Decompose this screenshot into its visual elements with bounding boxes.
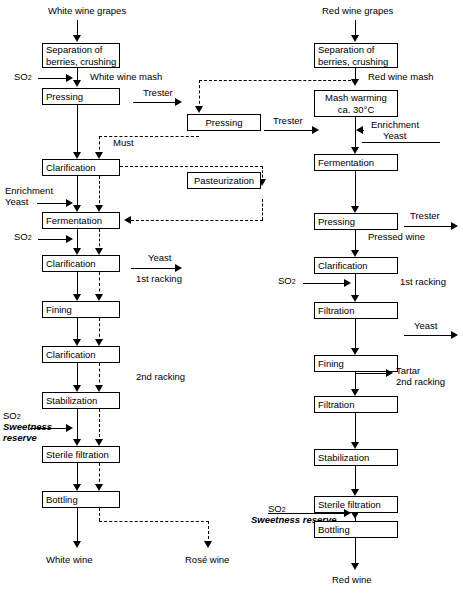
connector-yeast-out-red [404, 335, 452, 336]
box-pasteurization[interactable]: Pasteurization [187, 172, 261, 189]
arrowhead-right [451, 222, 458, 230]
arrowhead-down [351, 489, 359, 496]
label-white-wine-mash: White wine mash [90, 72, 162, 83]
arrowhead-right [175, 98, 182, 106]
connector-so2-1 [38, 78, 67, 79]
connector-so2-2 [38, 239, 67, 240]
box-separation-berries-crushing-red[interactable]: Separation of berries, crushing [314, 43, 398, 68]
label-yeast-out-white: Yeast [148, 253, 171, 264]
label-trester-white: Trester [143, 88, 173, 99]
label-red-wine-output: Red wine [332, 575, 372, 586]
connector-mashwarming-to-fermentation [355, 117, 356, 150]
arrowhead-right [66, 235, 73, 243]
label-white-wine-output: White wine [46, 555, 92, 566]
arrowhead-down [351, 147, 359, 154]
box-fining-white[interactable]: Fining [42, 301, 120, 318]
connector-dashed-redmash-left [199, 80, 356, 81]
box-label-line: ca. 30°C [338, 104, 375, 115]
arrowhead-right [175, 264, 182, 272]
arrowhead-down [351, 79, 359, 86]
box-sterile-filtration-red[interactable]: Sterile filtration [314, 496, 398, 513]
arrowhead-down [204, 541, 212, 548]
box-filtration-2-red[interactable]: Filtration [314, 396, 398, 413]
box-label-line: Pressing [206, 117, 243, 128]
box-clarification-1-white[interactable]: Clarification [42, 159, 120, 176]
box-label-line: Pressing [318, 216, 394, 227]
arrowhead-down [351, 206, 359, 213]
box-label-line: Stabilization [46, 395, 116, 406]
label-red-wine-grapes: Red wine grapes [322, 6, 393, 17]
connector-enrichment-stub [362, 130, 364, 131]
box-label-line: Pasteurization [194, 175, 254, 186]
arrowhead-right [344, 279, 351, 287]
box-clarification-red[interactable]: Clarification [314, 257, 398, 274]
connector-sweetness-reserve-red [268, 513, 345, 514]
arrowhead-down [351, 250, 359, 257]
label-1st-racking-white: 1st racking [136, 274, 182, 285]
box-fermentation-red[interactable]: Fermentation [314, 154, 398, 171]
box-fermentation-white[interactable]: Fermentation [42, 212, 120, 229]
label-reserve: reserve [3, 433, 37, 444]
arrowhead-down [73, 541, 81, 548]
arrowhead-down [73, 385, 81, 392]
box-pressing-middle[interactable]: Pressing [187, 114, 261, 131]
arrowhead-down [95, 152, 103, 159]
box-separation-berries-crushing-white[interactable]: Separation of berries, crushing [42, 43, 120, 68]
box-clarification-2-white[interactable]: Clarification [42, 255, 120, 272]
arrowhead-down [351, 563, 359, 570]
arrowhead-down [351, 35, 359, 42]
label-so2-2: SO2 [14, 232, 32, 243]
box-sterile-filtration-white[interactable]: Sterile filtration [42, 446, 120, 463]
box-stabilization-red[interactable]: Stabilization [314, 449, 398, 466]
arrowhead-down [73, 439, 81, 446]
connector-dashed-clarification1-to-fermentation [99, 176, 100, 208]
connector-fermentation-to-pressing-red [355, 171, 356, 209]
box-bottling-white[interactable]: Bottling [42, 491, 120, 508]
box-filtration-1-red[interactable]: Filtration [314, 302, 398, 319]
connector-dashed-bottling-rose-down [99, 508, 100, 521]
arrowhead-down [95, 294, 103, 301]
box-pressing-red[interactable]: Pressing [314, 213, 398, 230]
arrowhead-down [95, 385, 103, 392]
arrowhead-down [195, 106, 203, 113]
box-bottling-red[interactable]: Bottling [314, 521, 398, 538]
label-red-wine-mash: Red wine mash [368, 72, 433, 83]
arrowhead-right [312, 126, 319, 134]
connector-pressing-to-clarification1 [77, 105, 78, 155]
connector-dashed-bottling-rose-right [99, 521, 209, 522]
box-label-line: Clarification [46, 162, 116, 173]
arrowhead-down [73, 80, 81, 87]
box-label-line: Clarification [46, 258, 116, 269]
arrowhead-down [73, 152, 81, 159]
label-rose-wine-output: Rosé wine [185, 555, 229, 566]
box-label-line: Stabilization [318, 452, 394, 463]
box-clarification-3-white[interactable]: Clarification [42, 346, 120, 363]
label-trester-middle: Trester [273, 116, 303, 127]
box-label-line: berries, crushing [318, 56, 394, 67]
arrowhead-left [124, 216, 131, 224]
box-label-line: Filtration [318, 305, 394, 316]
label-1st-racking-red: 1st racking [400, 277, 446, 288]
connector-trester-red-out [404, 226, 452, 227]
box-stabilization-white[interactable]: Stabilization [42, 392, 120, 409]
arrowhead-down [95, 248, 103, 255]
arrowhead-right [66, 424, 73, 432]
box-label-line: Fermentation [318, 157, 394, 168]
connector-bottling-to-white-wine [77, 508, 78, 544]
arrowhead-right [451, 331, 458, 339]
box-label-line: Separation of [318, 44, 394, 55]
connector-bottling-to-red-wine [355, 538, 356, 566]
label-2nd-racking-white: 2nd racking [136, 372, 185, 383]
label-pressed-wine: Pressed wine [368, 232, 425, 243]
arrowhead-down [95, 205, 103, 212]
box-label-line: Filtration [318, 399, 394, 410]
arrowhead-right [386, 369, 393, 377]
label-must: Must [113, 138, 134, 149]
box-label-line: Bottling [46, 494, 116, 505]
connector-clarification1-to-fermentation [77, 176, 78, 208]
box-label-line: Pressing [46, 91, 116, 102]
label-so2-1: SO2 [14, 72, 32, 83]
box-mash-warming[interactable]: Mash warming ca. 30°C [314, 90, 398, 117]
box-pressing-white[interactable]: Pressing [42, 88, 120, 105]
arrowhead-down [73, 484, 81, 491]
